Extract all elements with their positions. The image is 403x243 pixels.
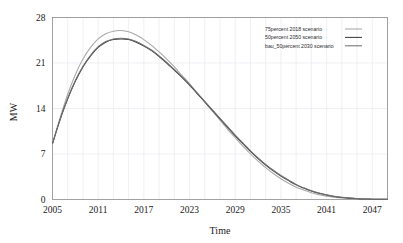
x-tick-label: 2005 xyxy=(43,205,62,215)
legend-label-3: bau_50percent 2030 scenario xyxy=(265,43,334,49)
y-tick-label: 14 xyxy=(36,104,46,114)
x-axis-title: Time xyxy=(210,225,231,236)
x-tick-label: 2011 xyxy=(89,205,108,215)
y-tick-label: 7 xyxy=(41,149,46,159)
line-chart: 07142128 2005201120172023202920352041204… xyxy=(0,0,403,243)
chart-legend: 75percent 2018 scenario50percent 2050 sc… xyxy=(265,26,362,49)
gridlines xyxy=(53,18,388,200)
y-tick-label: 0 xyxy=(41,195,46,205)
x-tick-label: 2023 xyxy=(180,205,199,215)
y-axis-title: MW xyxy=(8,102,19,121)
y-axis-tick-labels: 07142128 xyxy=(36,13,46,205)
x-tick-label: 2035 xyxy=(271,205,290,215)
x-tick-label: 2041 xyxy=(317,205,336,215)
chart-figure: 07142128 2005201120172023202920352041204… xyxy=(0,0,403,243)
y-tick-label: 21 xyxy=(36,58,46,68)
x-axis-tick-labels: 20052011201720232029203520412047 xyxy=(43,205,382,215)
legend-label-1: 75percent 2018 scenario xyxy=(265,26,322,32)
y-tick-label: 28 xyxy=(36,13,46,23)
x-tick-label: 2029 xyxy=(226,205,245,215)
x-tick-label: 2017 xyxy=(134,205,153,215)
x-tick-label: 2047 xyxy=(363,205,382,215)
legend-label-2: 50percent 2050 scenario xyxy=(265,34,322,40)
